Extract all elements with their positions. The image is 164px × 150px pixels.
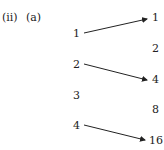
arrow-1-to-1	[84, 19, 147, 33]
mapping-arrows	[0, 0, 164, 150]
arrow-4-to-16	[84, 125, 145, 140]
arrow-2-to-4	[84, 64, 147, 80]
